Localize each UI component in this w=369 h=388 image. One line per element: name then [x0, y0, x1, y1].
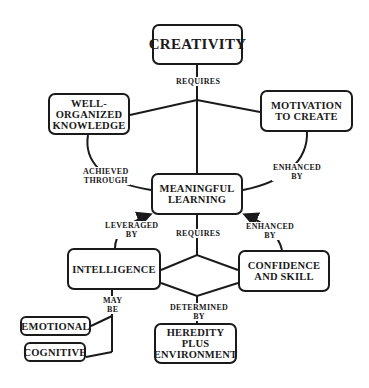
node-label: MOTIVATION TO CREATE [271, 100, 342, 122]
link-label-achieved-through: ACHIEVED THROUGH [82, 167, 130, 185]
link-label-creativity-requires: REQUIRES [175, 77, 221, 86]
link-label-confidence-enhanced-by: ENHANCED BY [245, 222, 295, 240]
link-label-may-be: MAY BE [102, 296, 123, 314]
link-label-determined-by: DETERMINED BY [169, 303, 229, 321]
node-intelligence: INTELLIGENCE [67, 248, 161, 290]
node-motivation-to-create: MOTIVATION TO CREATE [260, 90, 353, 132]
node-label: EMOTIONAL [21, 321, 89, 332]
node-meaningful-learning: MEANINGFUL LEARNING [151, 173, 243, 215]
node-creativity: CREATIVITY [152, 24, 243, 65]
node-label: CREATIVITY [149, 39, 247, 50]
node-confidence-and-skill: CONFIDENCE AND SKILL [238, 250, 330, 292]
node-cognitive: COGNITIVE [24, 342, 86, 362]
link-label-learning-requires: REQUIRES [175, 229, 221, 238]
node-heredity-plus-environment: HEREDITY PLUS ENVIRONMENT [154, 323, 237, 364]
node-label: COGNITIVE [23, 347, 86, 358]
node-emotional: EMOTIONAL [20, 316, 91, 336]
link-label-motivation-enhanced-by: ENHANCED BY [272, 163, 322, 181]
node-well-organized-knowledge: WELL- ORGANIZED KNOWLEDGE [48, 93, 130, 135]
node-label: MEANINGFUL LEARNING [160, 183, 235, 205]
link-label-leveraged-by: LEVERAGED BY [104, 221, 159, 239]
node-label: CONFIDENCE AND SKILL [248, 260, 321, 282]
node-label: INTELLIGENCE [72, 264, 156, 275]
node-label: WELL- ORGANIZED KNOWLEDGE [53, 98, 126, 131]
node-label: HEREDITY PLUS ENVIRONMENT [154, 327, 237, 360]
